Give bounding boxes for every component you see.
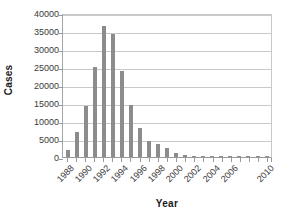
y-axis-tick-mark (59, 141, 63, 142)
y-axis-tick-label: 15000 (14, 100, 59, 109)
plot-area (62, 14, 272, 158)
bar-slot (199, 15, 208, 157)
x-axis-tick-mark (121, 158, 122, 162)
bar (265, 156, 269, 157)
x-axis-tick-mark (67, 158, 68, 162)
x-axis-tick-mark (149, 158, 150, 162)
x-axis-tick-mark (103, 158, 104, 162)
x-axis-tick-mark (258, 158, 259, 162)
x-axis-title: Year (62, 198, 272, 209)
bar-chart: Cases 0500010000150002000025000300003500… (0, 0, 285, 219)
bar (75, 132, 79, 157)
bar (120, 71, 124, 157)
bar-slot (253, 15, 262, 157)
bar (93, 67, 97, 157)
bar (129, 105, 133, 157)
x-axis-tick-mark (94, 158, 95, 162)
bar (174, 153, 178, 157)
bar-slot (72, 15, 81, 157)
x-axis-tick-label: 2010 (252, 163, 276, 187)
bar-slot (262, 15, 271, 157)
y-axis-tick-mark (59, 33, 63, 34)
bar (147, 141, 151, 157)
y-axis-tick-mark (59, 69, 63, 70)
bar (192, 156, 196, 157)
bar (111, 34, 115, 157)
x-axis-tick-label: 2004 (198, 163, 222, 187)
y-axis-tick-label: 10000 (14, 118, 59, 127)
x-axis-tick-label: 1996 (125, 163, 149, 187)
bar (183, 155, 187, 157)
bar-slot (181, 15, 190, 157)
y-axis-tick-label: 20000 (14, 82, 59, 91)
x-axis-tick-label: 2002 (179, 163, 203, 187)
bar-slot (135, 15, 144, 157)
bar-slot (90, 15, 99, 157)
bar (210, 156, 214, 157)
x-axis-tick-mark (213, 158, 214, 162)
y-axis-tick-mark (59, 15, 63, 16)
x-axis-tick-labels: 1988199019921994199619982000200220042006… (62, 163, 272, 195)
bar (84, 106, 88, 157)
bar-slot (190, 15, 199, 157)
bar-slot (153, 15, 162, 157)
bar (138, 128, 142, 157)
x-axis-tick-mark (85, 158, 86, 162)
bar (201, 156, 205, 157)
x-axis-tick-mark (203, 158, 204, 162)
bar (66, 150, 70, 157)
bar-slot (99, 15, 108, 157)
bar-slot (63, 15, 72, 157)
bar (165, 148, 169, 157)
x-axis-tick-mark (222, 158, 223, 162)
y-axis-tick-mark (59, 87, 63, 88)
bar-slot (217, 15, 226, 157)
y-axis-tick-label: 5000 (14, 136, 59, 145)
bar (156, 144, 160, 157)
y-axis-tick-mark (59, 123, 63, 124)
y-axis-tick-label: 0 (14, 154, 59, 163)
bar (219, 156, 223, 157)
x-axis-tick-mark (231, 158, 232, 162)
bar-slot (163, 15, 172, 157)
bar-slot (235, 15, 244, 157)
bar-slot (108, 15, 117, 157)
x-axis-tick-mark (240, 158, 241, 162)
bar-slot (172, 15, 181, 157)
bar (246, 156, 250, 157)
y-axis-tick-label: 40000 (14, 10, 59, 19)
bar-series (63, 15, 271, 157)
x-axis-tick-mark (158, 158, 159, 162)
x-axis-tick-mark (249, 158, 250, 162)
x-axis-tick-mark (130, 158, 131, 162)
x-axis-tick-label: 1994 (106, 163, 130, 187)
y-axis-tick-labels: 0500010000150002000025000300003500040000 (14, 8, 59, 164)
x-axis-tick-mark (76, 158, 77, 162)
bar-slot (117, 15, 126, 157)
bar (256, 156, 260, 157)
bar (237, 156, 241, 157)
x-axis-tick-mark (194, 158, 195, 162)
bar-slot (244, 15, 253, 157)
y-axis-tick-mark (59, 51, 63, 52)
bar (228, 156, 232, 157)
x-axis-end-tick (271, 158, 272, 162)
x-axis-tick-mark (185, 158, 186, 162)
x-axis-tick-mark (267, 158, 268, 162)
x-axis-tick-label: 1988 (52, 163, 76, 187)
y-axis-tick-label: 30000 (14, 46, 59, 55)
bar-slot (144, 15, 153, 157)
bar (102, 26, 106, 157)
x-axis-tick-mark (167, 158, 168, 162)
y-axis-tick-label: 35000 (14, 28, 59, 37)
x-axis-tick-mark (112, 158, 113, 162)
bar-slot (81, 15, 90, 157)
bar-slot (126, 15, 135, 157)
bar-slot (226, 15, 235, 157)
y-axis-tick-label: 25000 (14, 64, 59, 73)
bar-slot (208, 15, 217, 157)
y-axis-tick-mark (59, 105, 63, 106)
x-axis-tick-mark (176, 158, 177, 162)
x-axis-tick-mark (140, 158, 141, 162)
